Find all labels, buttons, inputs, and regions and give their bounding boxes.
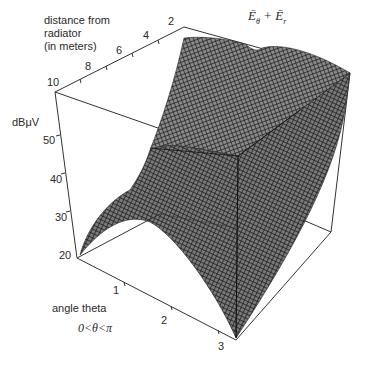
y-tick-10: 10 xyxy=(47,76,59,88)
z-tick-20: 20 xyxy=(59,249,71,261)
angle-range-label: 0<θ<π xyxy=(78,322,112,335)
distance-axis-label: distance from radiator (in meters) xyxy=(44,14,110,53)
y-tick-8: 8 xyxy=(85,60,91,72)
x-tick-3: 3 xyxy=(218,340,224,352)
angle-axis-label: angle theta xyxy=(52,302,106,315)
y-tick-4: 4 xyxy=(143,29,149,41)
x-tick-2: 2 xyxy=(161,314,167,326)
z-tick-50: 50 xyxy=(43,134,55,146)
z-tick-30: 30 xyxy=(55,211,67,223)
z-axis-label: dBμV xyxy=(12,116,39,129)
y-tick-6: 6 xyxy=(116,44,122,56)
chart-title: Ēθ + Ēr xyxy=(248,8,286,26)
y-tick-2: 2 xyxy=(168,15,174,27)
x-tick-1: 1 xyxy=(113,284,119,296)
z-tick-40: 40 xyxy=(50,173,62,185)
